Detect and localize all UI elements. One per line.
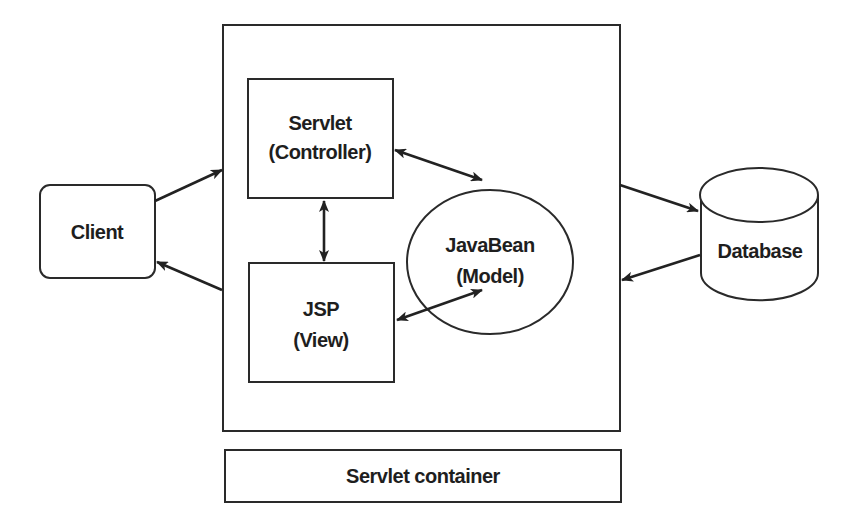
servlet-container-label-box: Servlet container: [225, 450, 621, 502]
mvc-diagram: Servlet (Controller) JSP (View) JavaBean…: [0, 0, 853, 529]
client-to-container-arrow: [155, 170, 222, 201]
container-to-client-arrow: [157, 262, 222, 290]
controller-label: (Controller): [269, 141, 372, 163]
javabean-label: JavaBean: [445, 234, 534, 256]
servlet-container-label: Servlet container: [346, 465, 501, 487]
servlet-controller-node: Servlet (Controller): [248, 79, 393, 198]
database-to-container-arrow: [622, 255, 700, 280]
database-node: Database: [700, 168, 818, 300]
view-label: (View): [293, 329, 349, 351]
servlet-label: Servlet: [288, 112, 352, 134]
jsp-label: JSP: [303, 298, 339, 320]
client-node: Client: [40, 185, 155, 278]
client-label: Client: [71, 221, 124, 243]
database-label: Database: [718, 240, 803, 262]
jsp-view-node: JSP (View): [249, 263, 394, 382]
model-label: (Model): [456, 265, 524, 287]
javabean-model-node: JavaBean (Model): [407, 190, 573, 334]
container-to-database-arrow: [620, 185, 698, 211]
